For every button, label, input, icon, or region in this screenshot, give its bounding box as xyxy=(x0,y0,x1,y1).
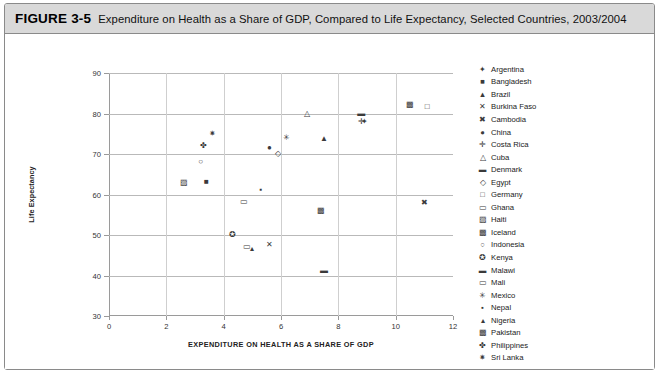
legend-marker-icon: ✦ xyxy=(477,65,488,74)
legend-marker-icon: ✪ xyxy=(477,253,488,262)
legend-marker-icon: ✳ xyxy=(477,291,488,300)
y-axis-tick-label: 60 xyxy=(93,190,101,199)
data-point: ✪ xyxy=(227,230,237,240)
legend-marker-icon: △ xyxy=(477,153,488,162)
data-point: ■ xyxy=(201,177,211,187)
gridline-vertical xyxy=(224,73,225,316)
legend-label: Sri Lanka xyxy=(491,353,523,362)
data-point: ○ xyxy=(196,157,206,167)
legend-label: Malawi xyxy=(491,266,515,275)
legend-item[interactable]: ▨Haiti xyxy=(477,214,617,227)
gridline-vertical xyxy=(396,73,397,316)
data-point: ▴ xyxy=(247,244,257,254)
chart-legend: ✦Argentina■Bangladesh▲Brazil✕Burkina Fas… xyxy=(477,63,617,364)
legend-marker-icon: □ xyxy=(477,190,488,199)
legend-label: Mexico xyxy=(491,291,515,300)
legend-item[interactable]: ○Indonesia xyxy=(477,239,617,252)
legend-item[interactable]: ▭Mali xyxy=(477,276,617,289)
gridline-vertical xyxy=(166,73,167,316)
legend-label: Nepal xyxy=(491,303,511,312)
x-axis-tick-label: 6 xyxy=(279,322,283,331)
legend-item[interactable]: ▴Nigeria xyxy=(477,314,617,327)
legend-item[interactable]: □Germany xyxy=(477,188,617,201)
legend-item[interactable]: ✖Cambodia xyxy=(477,113,617,126)
legend-marker-icon: ▭ xyxy=(477,278,488,287)
legend-label: Denmark xyxy=(491,165,522,174)
data-point: ▭ xyxy=(239,197,249,207)
legend-label: China xyxy=(491,128,511,137)
y-axis-tick-label: 50 xyxy=(93,231,101,240)
x-axis-tick xyxy=(224,316,225,320)
legend-item[interactable]: ✦Argentina xyxy=(477,63,617,76)
data-point: ✤ xyxy=(199,141,209,151)
y-axis-title: Life Expectancy xyxy=(27,73,36,316)
legend-marker-icon: ▴ xyxy=(477,316,488,325)
legend-item[interactable]: ▩Iceland xyxy=(477,226,617,239)
y-axis-tick-label: 70 xyxy=(93,150,101,159)
y-axis-tick xyxy=(104,235,109,236)
legend-item[interactable]: ✷Sri Lanka xyxy=(477,352,617,365)
legend-marker-icon: ▪ xyxy=(477,303,488,312)
legend-label: Iceland xyxy=(491,228,516,237)
gridline-vertical xyxy=(338,73,339,316)
legend-item[interactable]: △Cuba xyxy=(477,151,617,164)
x-axis-tick-label: 2 xyxy=(164,322,168,331)
legend-marker-icon: ■ xyxy=(477,77,488,86)
y-axis-tick xyxy=(104,276,109,277)
legend-label: Ghana xyxy=(491,203,514,212)
x-axis-tick xyxy=(109,316,110,320)
y-axis-tick xyxy=(104,195,109,196)
legend-label: Burkina Faso xyxy=(491,102,536,111)
legend-item[interactable]: ✤Philippines xyxy=(477,339,617,352)
data-point: ▪ xyxy=(256,185,266,195)
legend-label: Philippines xyxy=(491,341,528,350)
legend-label: Argentina xyxy=(491,65,524,74)
x-axis-tick-label: 12 xyxy=(449,322,457,331)
legend-marker-icon: ● xyxy=(477,128,488,137)
legend-item[interactable]: ▭Ghana xyxy=(477,201,617,214)
data-point: ◇ xyxy=(273,149,283,159)
legend-marker-icon: ✕ xyxy=(477,102,488,111)
legend-marker-icon: ✛ xyxy=(477,140,488,149)
legend-item[interactable]: ▪Nepal xyxy=(477,301,617,314)
legend-label: Nigeria xyxy=(491,316,515,325)
x-axis-tick xyxy=(453,316,454,320)
legend-item[interactable]: ▬Denmark xyxy=(477,163,617,176)
legend-item[interactable]: ✕Burkina Faso xyxy=(477,101,617,114)
legend-item[interactable]: ✛Costa Rica xyxy=(477,138,617,151)
legend-marker-icon: ✷ xyxy=(477,353,488,362)
legend-label: Haiti xyxy=(491,215,506,224)
x-axis-title: EXPENDITURE ON HEALTH AS A SHARE OF GDP xyxy=(109,340,453,349)
data-point: △ xyxy=(302,109,312,119)
legend-item[interactable]: ✪Kenya xyxy=(477,251,617,264)
data-point: ✖ xyxy=(419,198,429,208)
data-point: ✳ xyxy=(282,133,292,143)
legend-marker-icon: ▨ xyxy=(477,215,488,224)
x-axis-tick-label: 10 xyxy=(391,322,399,331)
data-point: ▬ xyxy=(356,109,366,119)
legend-item[interactable]: ✳Mexico xyxy=(477,289,617,302)
y-axis-tick xyxy=(104,114,109,115)
legend-marker-icon: ✤ xyxy=(477,341,488,350)
figure-title-bar: FIGURE 3-5 Expenditure on Health as a Sh… xyxy=(5,4,654,34)
legend-marker-icon: ▬ xyxy=(477,266,488,275)
figure-title: Expenditure on Health as a Share of GDP,… xyxy=(98,13,626,25)
legend-marker-icon: ▲ xyxy=(477,90,488,99)
legend-item[interactable]: ■Bangladesh xyxy=(477,76,617,89)
plot-area: 30405060708090024681012 ✦■▲✕✖●✛△▬◇□▭▨▩○✪… xyxy=(109,73,453,316)
data-point: ▩ xyxy=(405,100,415,110)
y-axis-tick xyxy=(104,154,109,155)
data-point: □ xyxy=(422,102,432,112)
legend-item[interactable]: ▲Brazil xyxy=(477,88,617,101)
legend-marker-icon: ◇ xyxy=(477,178,488,187)
legend-item[interactable]: ▬Malawi xyxy=(477,264,617,277)
data-point: ▨ xyxy=(179,178,189,188)
legend-item[interactable]: ●China xyxy=(477,126,617,139)
legend-item[interactable]: ◇Egypt xyxy=(477,176,617,189)
data-point: ▬ xyxy=(319,266,329,276)
x-axis-tick-label: 4 xyxy=(222,322,226,331)
legend-label: Pakistan xyxy=(491,328,521,337)
legend-label: Costa Rica xyxy=(491,140,529,149)
legend-marker-icon: ▩ xyxy=(477,328,488,337)
legend-item[interactable]: ▩Pakistan xyxy=(477,326,617,339)
